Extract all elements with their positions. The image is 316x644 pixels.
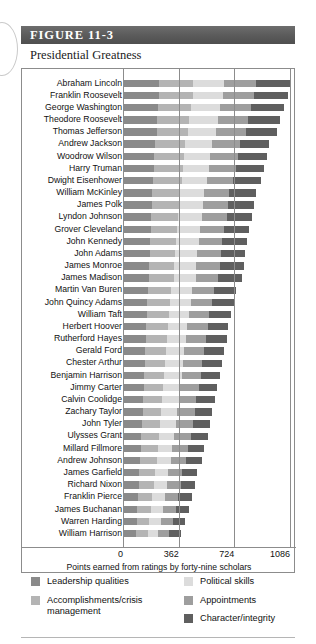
bar-row-label: Harry Truman: [0, 163, 122, 174]
bar-row: Warren Harding: [22, 516, 296, 528]
stacked-bar: [123, 238, 247, 245]
bar-row: Andrew Jackson: [22, 139, 296, 151]
bar-segment: [224, 226, 249, 233]
bar-row-label: Zachary Taylor: [0, 406, 122, 417]
figure-header-bar: FIGURE 11-3: [21, 26, 295, 44]
bar-segment: [178, 213, 202, 220]
bar-segment: [200, 226, 224, 233]
bar-row: Jimmy Carter: [22, 382, 296, 394]
bar-segment: [157, 116, 189, 123]
bar-row: Theodore Roosevelt: [22, 115, 296, 127]
stacked-bar: [123, 384, 217, 391]
bar-segment: [177, 226, 200, 233]
bar-segment: [181, 481, 195, 488]
stacked-bar: [123, 104, 284, 111]
bar-segment: [209, 311, 231, 318]
bar-segment: [161, 518, 173, 525]
bar-segment: [188, 445, 204, 452]
bar-row: Lyndon Johnson: [22, 212, 296, 224]
bar-segment: [145, 360, 165, 367]
legend-item: Accomplishments/crisis management: [31, 595, 171, 618]
bar-segment: [158, 104, 191, 111]
legend-label: Appointments: [200, 595, 256, 607]
bar-segment: [149, 262, 174, 269]
bar-row-label: Ulysses Grant: [0, 430, 122, 441]
bar-segment: [199, 238, 223, 245]
bar-segment: [174, 274, 196, 281]
bar-row-label: Benjamin Harrison: [0, 370, 122, 381]
bar-row: John Tyler: [22, 419, 296, 431]
figure-title: Presidential Greatness: [30, 48, 141, 63]
bar-segment: [165, 360, 183, 367]
bar-row-label: Grover Cleveland: [0, 224, 122, 235]
bar-segment: [155, 469, 169, 476]
stacked-bar: [123, 335, 227, 342]
bar-segment: [147, 299, 170, 306]
bar-segment: [160, 420, 176, 427]
bar-segment: [158, 445, 173, 452]
bar-segment: [158, 530, 169, 537]
bar-segment: [221, 250, 245, 257]
bar-segment: [139, 469, 154, 476]
bar-segment: [203, 201, 228, 208]
bar-segment: [206, 335, 227, 342]
stacked-bar: [123, 323, 228, 330]
bar-segment: [178, 493, 192, 500]
bar-segment: [187, 323, 207, 330]
bar-segment: [123, 481, 139, 488]
bar-segment: [256, 80, 290, 87]
bar-row: Martin Van Buren: [22, 285, 296, 297]
bar-segment: [188, 128, 216, 135]
bar-row: William Harrison: [22, 528, 296, 540]
legend-column-right: Political skillsAppointmentsCharacter/in…: [184, 576, 304, 632]
bar-segment: [228, 201, 254, 208]
bar-segment: [195, 408, 213, 415]
bar-segment: [123, 384, 144, 391]
bar-row: Zachary Taylor: [22, 407, 296, 419]
legend-swatch: [184, 614, 193, 623]
bar-segment: [202, 360, 222, 367]
legend-label: Leadership qualities: [47, 576, 129, 588]
bar-row-label: Rutherford Hayes: [0, 333, 122, 344]
bar-segment: [179, 396, 197, 403]
bar-segment: [137, 518, 150, 525]
bar-row: Ulysses Grant: [22, 431, 296, 443]
stacked-bar: [123, 457, 202, 464]
bar-segment: [184, 153, 210, 160]
bar-segment: [151, 506, 163, 513]
bar-segment: [163, 506, 176, 513]
stacked-bar: [123, 311, 231, 318]
bar-segment: [141, 433, 159, 440]
chart-legend: Leadership qualitiesAccomplishments/cris…: [21, 576, 295, 638]
bar-row-label: Franklin Pierce: [0, 491, 122, 502]
bar-segment: [196, 396, 214, 403]
stacked-bar: [123, 408, 212, 415]
bar-segment: [123, 274, 149, 281]
bar-segment: [168, 323, 187, 330]
stacked-bar: [123, 213, 252, 220]
bar-row: Herbert Hoover: [22, 321, 296, 333]
bar-segment: [159, 92, 193, 99]
bar-segment: [248, 116, 280, 123]
bar-segment: [154, 481, 167, 488]
bar-segment: [123, 80, 159, 87]
bar-row: Millard Fillmore: [22, 443, 296, 455]
bar-segment: [214, 287, 236, 294]
bar-segment: [146, 335, 168, 342]
x-tick-label: 1086: [270, 549, 291, 559]
bar-row: James Monroe: [22, 261, 296, 273]
bar-row: Franklin Pierce: [22, 492, 296, 504]
bar-segment: [251, 104, 284, 111]
bar-row-label: John Quincy Adams: [0, 297, 122, 308]
bar-segment: [123, 311, 147, 318]
bar-segment: [208, 323, 229, 330]
x-tick-label: 0: [118, 549, 124, 559]
bar-segment: [171, 287, 192, 294]
stacked-bar: [123, 469, 197, 476]
bar-segment: [123, 335, 146, 342]
bar-segment: [141, 445, 158, 452]
bar-row: William Taft: [22, 309, 296, 321]
bar-segment: [123, 226, 151, 233]
bar-row-label: James Buchanan: [0, 504, 122, 515]
bar-segment: [152, 201, 179, 208]
